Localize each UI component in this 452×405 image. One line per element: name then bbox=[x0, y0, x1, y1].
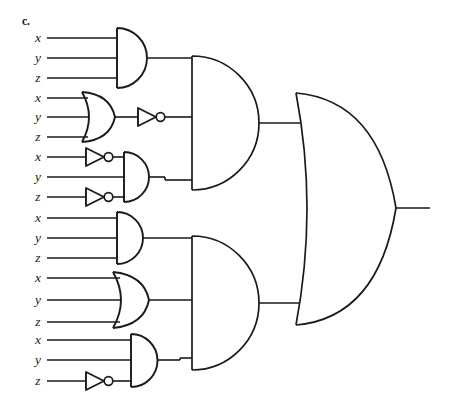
input-label-g5-x: x bbox=[35, 271, 41, 285]
input-label-g4-y: y bbox=[35, 231, 41, 245]
input-label-g4-x: x bbox=[35, 211, 41, 225]
input-label-g3-x: x bbox=[35, 150, 41, 164]
not-gate-3x bbox=[86, 148, 125, 166]
input-label-g5-y: y bbox=[35, 293, 41, 307]
input-label-g3-y: y bbox=[35, 170, 41, 184]
not-gate-2 bbox=[138, 108, 192, 126]
not-bubble-2 bbox=[156, 113, 165, 122]
not-bubble-3x bbox=[104, 153, 113, 162]
input-group-5 bbox=[47, 278, 120, 322]
input-label-g1-z: z bbox=[35, 71, 40, 85]
and-gate-3 bbox=[124, 152, 192, 202]
or-gate-output bbox=[296, 93, 430, 325]
input-label-g1-y: y bbox=[35, 51, 41, 65]
circuit-schematic-svg bbox=[0, 0, 452, 405]
input-label-g6-z: z bbox=[35, 374, 40, 388]
or-gate-5 bbox=[113, 272, 192, 328]
and-gate-stage2-bottom bbox=[192, 236, 300, 370]
input-label-g6-x: x bbox=[35, 333, 41, 347]
input-label-g6-y: y bbox=[35, 353, 41, 367]
or-gate-2 bbox=[82, 92, 138, 142]
input-group-6 bbox=[47, 340, 132, 381]
logic-circuit-diagram: c. bbox=[0, 0, 452, 405]
input-group-2 bbox=[47, 98, 88, 137]
and-gate-4 bbox=[117, 212, 192, 264]
input-label-g5-z: z bbox=[35, 315, 40, 329]
input-label-g2-z: z bbox=[35, 130, 40, 144]
not-gate-3z bbox=[86, 188, 125, 206]
input-group-1 bbox=[47, 38, 118, 78]
not-gate-6z bbox=[86, 372, 132, 390]
input-group-4 bbox=[47, 218, 118, 258]
and-gate-1 bbox=[117, 28, 192, 88]
and-gate-6 bbox=[131, 334, 192, 387]
not-bubble-6z bbox=[104, 377, 113, 386]
input-label-g4-z: z bbox=[35, 251, 40, 265]
input-label-g2-x: x bbox=[35, 91, 41, 105]
input-label-g2-y: y bbox=[35, 110, 41, 124]
input-label-g3-z: z bbox=[35, 190, 40, 204]
not-bubble-3z bbox=[104, 193, 113, 202]
input-label-g1-x: x bbox=[35, 31, 41, 45]
and-gate-stage2-top bbox=[192, 56, 300, 190]
